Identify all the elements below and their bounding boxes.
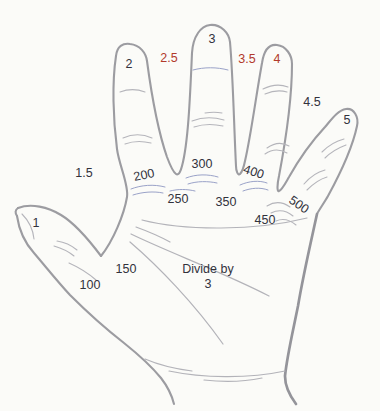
index-middle-web-value-label: 2.5 bbox=[160, 51, 177, 65]
little-base-value-label: 500 bbox=[286, 193, 311, 216]
index-finger-value-label: 2 bbox=[126, 57, 133, 71]
thumb-index-web-value-label: 1.5 bbox=[75, 166, 92, 180]
hand-diagram-svg: 1 1.5 2 2.5 3 3.5 4 4.5 5 100 150 200 25… bbox=[0, 0, 380, 411]
middle-ring-web-value-label: 3.5 bbox=[238, 52, 255, 66]
thumb-tip-path bbox=[16, 208, 18, 216]
middle-base-value-label: 300 bbox=[192, 157, 213, 171]
middle-ring-base-value-label: 350 bbox=[216, 195, 237, 209]
thumb-bottom-and-palm-left-edge-path bbox=[17, 216, 174, 404]
ring-base-value-label: 400 bbox=[242, 162, 266, 182]
divide-instruction-line1: Divide by bbox=[182, 262, 234, 276]
palm-right-edge-path bbox=[285, 214, 317, 404]
thumb-web-value-label: 150 bbox=[116, 262, 137, 276]
palm-crease-lines bbox=[130, 218, 307, 344]
little-finger-value-label: 5 bbox=[344, 113, 351, 127]
thumb-base-value-label: 100 bbox=[80, 278, 101, 292]
hand-fingers-outline-path bbox=[101, 25, 357, 256]
index-middle-base-value-label: 250 bbox=[168, 192, 189, 206]
ring-little-base-value-label: 450 bbox=[255, 213, 276, 227]
index-base-value-label: 200 bbox=[132, 166, 155, 184]
divide-instruction-line2: 3 bbox=[205, 277, 212, 291]
thumb-value-label: 1 bbox=[33, 216, 40, 230]
ring-finger-value-label: 4 bbox=[274, 52, 281, 66]
middle-finger-value-label: 3 bbox=[209, 32, 216, 46]
hand-rule-diagram: 1 1.5 2 2.5 3 3.5 4 4.5 5 100 150 200 25… bbox=[0, 0, 380, 411]
ring-little-web-value-label: 4.5 bbox=[303, 95, 320, 109]
wrist-crease-lines bbox=[145, 359, 285, 381]
